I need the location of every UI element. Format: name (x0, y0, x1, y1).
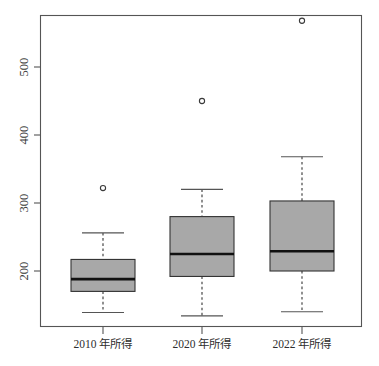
x-axis-label-2010: 2010 年所得 (74, 337, 133, 350)
box-3 (270, 201, 334, 271)
boxplot-canvas: 500 400 300 200 2010 年所得 2020 年所得 2022 年… (0, 0, 379, 366)
box-2 (170, 217, 234, 277)
y-axis-label-400: 400 (17, 126, 31, 145)
boxplot-chart: 500 400 300 200 2010 年所得 2020 年所得 2022 年… (0, 0, 379, 366)
box-1 (71, 259, 135, 291)
x-axis-label-2020: 2020 年所得 (173, 337, 232, 350)
y-axis-label-200: 200 (17, 262, 31, 281)
y-axis-label-300: 300 (17, 194, 31, 213)
chart-background (0, 0, 379, 366)
y-axis-label-500: 500 (17, 58, 31, 77)
x-axis-label-2022: 2022 年所得 (273, 337, 332, 350)
x-axis-labels: 2010 年所得 2020 年所得 2022 年所得 (74, 337, 332, 350)
